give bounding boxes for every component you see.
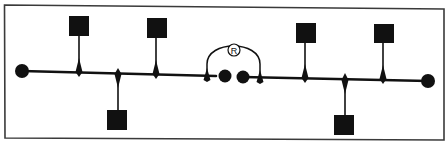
station-box-icon xyxy=(334,115,354,135)
repeater-label: R xyxy=(231,46,238,56)
bus-cable-right xyxy=(243,77,428,81)
station-top-1[interactable] xyxy=(69,16,89,77)
station-top-2[interactable] xyxy=(147,18,167,79)
segment-left xyxy=(15,16,232,130)
segment-right xyxy=(237,23,436,135)
station-box-icon xyxy=(147,18,167,38)
tap-icon xyxy=(153,60,160,79)
station-top-3[interactable] xyxy=(296,23,316,83)
station-bottom-1[interactable] xyxy=(107,68,127,130)
terminator-left-icon xyxy=(15,64,29,78)
terminator-right-icon xyxy=(421,74,435,88)
tap-icon xyxy=(76,58,83,77)
station-box-icon xyxy=(296,23,316,43)
station-box-icon xyxy=(69,16,89,36)
station-box-icon xyxy=(374,24,394,43)
tap-icon xyxy=(342,73,349,94)
station-bottom-2[interactable] xyxy=(334,73,354,135)
station-box-icon xyxy=(107,110,127,130)
tap-icon xyxy=(302,64,309,83)
terminator-inner-left-icon xyxy=(219,70,232,83)
station-top-4[interactable] xyxy=(374,24,394,84)
tap-icon xyxy=(115,68,122,88)
network-diagram: R xyxy=(0,0,448,144)
terminator-inner-right-icon xyxy=(237,71,250,84)
